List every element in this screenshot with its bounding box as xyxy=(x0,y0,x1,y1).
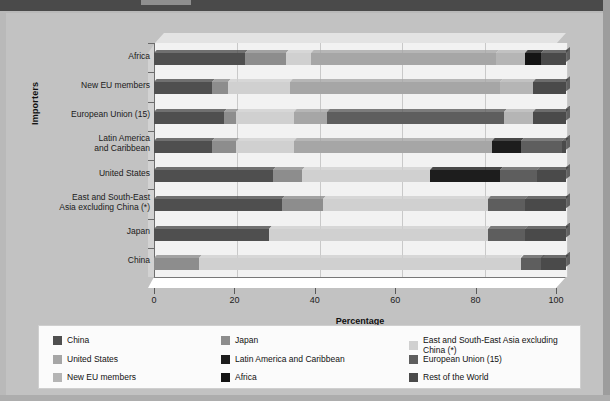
y-tick-label: Latin Americaand Caribbean xyxy=(30,133,150,153)
legend-label: Rest of the World xyxy=(423,372,489,382)
bar-row xyxy=(148,255,566,270)
y-tick-label-line: New EU members xyxy=(30,80,150,90)
legend-item[interactable]: United States xyxy=(53,354,118,364)
bar-segment xyxy=(212,141,237,153)
legend-swatch xyxy=(221,373,230,382)
bar-segment xyxy=(430,170,500,182)
y-tick xyxy=(148,219,154,220)
legend-label: United States xyxy=(67,354,118,364)
x-tick xyxy=(154,288,155,294)
x-tick xyxy=(395,288,396,294)
legend-label: Latin America and Caribbean xyxy=(235,354,345,364)
bar-row xyxy=(148,226,566,241)
bar-segment xyxy=(154,141,212,153)
bar-segment xyxy=(294,141,492,153)
legend-item[interactable]: New EU members xyxy=(53,372,136,382)
y-axis-title: Importers xyxy=(30,82,40,125)
bar-segment xyxy=(533,112,566,124)
bar-segment-front xyxy=(154,258,199,270)
bar-segment-front xyxy=(496,53,525,65)
bar-row xyxy=(148,138,566,153)
bar-segment xyxy=(311,53,496,65)
bar-end-cap xyxy=(566,223,570,238)
bar-segment xyxy=(154,82,212,94)
bar-segment-front xyxy=(154,170,273,182)
legend-label: European Union (15) xyxy=(423,354,502,364)
bar-segment-front xyxy=(236,141,294,153)
bar-segment-front xyxy=(269,229,487,241)
y-tick-label-line: European Union (15) xyxy=(30,109,150,119)
bar-segment xyxy=(154,53,245,65)
y-tick-label: China xyxy=(30,255,150,265)
bar-segment-front xyxy=(154,199,282,211)
y-tick xyxy=(148,131,154,132)
y-tick-label: Japan xyxy=(30,226,150,236)
bar-segment xyxy=(224,112,236,124)
bar-segment xyxy=(282,199,323,211)
legend-item[interactable]: East and South-East Asia excluding China… xyxy=(409,335,580,355)
bar-segment-front xyxy=(541,258,566,270)
bar-segment xyxy=(236,112,294,124)
bar-segment-front xyxy=(533,112,566,124)
bar-segment xyxy=(541,53,566,65)
y-tick-label-line: United States xyxy=(30,168,150,178)
bar-segment xyxy=(302,170,430,182)
bar-segment-front xyxy=(492,141,521,153)
bar-segment xyxy=(154,170,273,182)
x-tick-label: 40 xyxy=(295,295,335,305)
bar-segment-front xyxy=(286,53,311,65)
bar-segment-front xyxy=(500,170,537,182)
bar-segment-front xyxy=(311,53,496,65)
bottom-page-edge xyxy=(0,395,610,401)
bar-segment xyxy=(537,170,566,182)
x-tick-label: 80 xyxy=(456,295,496,305)
bar-segment-front xyxy=(525,229,566,241)
bar-segment-front xyxy=(327,112,504,124)
legend-item[interactable]: Africa xyxy=(221,372,257,382)
bar-segment xyxy=(269,229,487,241)
legend-item[interactable]: European Union (15) xyxy=(409,354,502,364)
bar-segment xyxy=(245,53,286,65)
legend-item[interactable]: Rest of the World xyxy=(409,372,489,382)
legend-swatch xyxy=(409,373,418,382)
bar-segment-front xyxy=(228,82,290,94)
bar-segment xyxy=(500,170,537,182)
bar-segment-front xyxy=(290,82,500,94)
bar-segment-front xyxy=(154,141,212,153)
legend-item[interactable]: China xyxy=(53,335,89,345)
top-header-band xyxy=(0,0,610,11)
bar-segment xyxy=(286,53,311,65)
bar-segment xyxy=(492,141,521,153)
legend-item[interactable]: Latin America and Caribbean xyxy=(221,354,345,364)
bar-row xyxy=(148,79,566,94)
bar-end-cap xyxy=(566,164,570,179)
bar-segment xyxy=(154,229,269,241)
x-tick-label: 20 xyxy=(214,295,254,305)
bar-end-cap xyxy=(566,135,570,150)
bar-segment-front xyxy=(154,53,245,65)
bar-segment xyxy=(236,141,294,153)
y-tick-label: New EU members xyxy=(30,80,150,90)
bar-segment-front xyxy=(430,170,500,182)
bar-end-cap xyxy=(566,252,570,267)
bar-segment xyxy=(504,112,533,124)
bar-segment xyxy=(525,53,541,65)
bar-row xyxy=(148,109,566,124)
bar-end-cap xyxy=(566,76,570,91)
legend-item[interactable]: Japan xyxy=(221,335,258,345)
y-tick xyxy=(148,102,154,103)
bar-end-cap xyxy=(566,193,570,208)
x-tick xyxy=(476,288,477,294)
bar-segment-front xyxy=(282,199,323,211)
bar-segment-front xyxy=(224,112,236,124)
bar-segment-front xyxy=(154,229,269,241)
bar-segment-front xyxy=(533,82,566,94)
bar-segment xyxy=(273,170,302,182)
bar-segment-front xyxy=(525,199,566,211)
legend-label: China xyxy=(67,335,89,345)
y-tick xyxy=(148,189,154,190)
x-tick-label: 0 xyxy=(134,295,174,305)
bar-segment xyxy=(533,82,566,94)
y-tick-label-line: Asia excluding China (*) xyxy=(30,202,150,212)
bar-segment-front xyxy=(154,112,224,124)
